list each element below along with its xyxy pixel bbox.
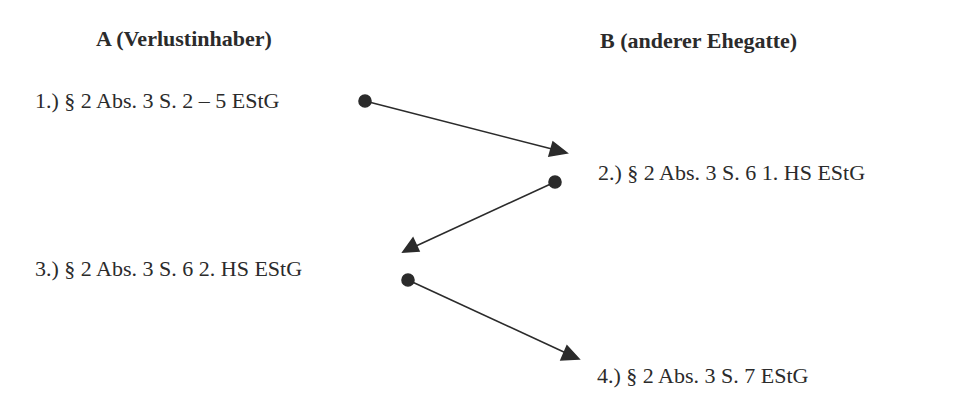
edge-2-to-3 xyxy=(403,176,561,252)
edge-1-to-2 xyxy=(359,95,567,156)
arrowhead-icon xyxy=(561,346,579,360)
edge-3-to-4 xyxy=(402,274,579,360)
arrowhead-icon xyxy=(549,142,567,156)
flow-arrows xyxy=(0,0,970,404)
arrowhead-icon xyxy=(403,238,419,252)
